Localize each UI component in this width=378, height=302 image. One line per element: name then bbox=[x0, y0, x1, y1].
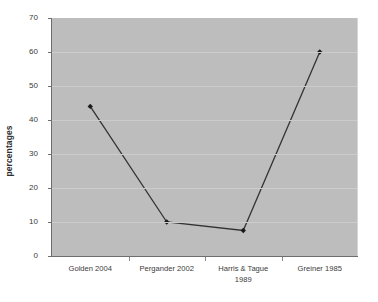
x-tick-label: Golden 2004 bbox=[52, 264, 129, 275]
gridline bbox=[52, 120, 357, 121]
x-tick-mark bbox=[282, 257, 283, 261]
gridline bbox=[52, 52, 357, 53]
gridline bbox=[52, 188, 357, 189]
data-point-marker bbox=[241, 228, 246, 233]
x-tick-label: Greiner 1985 bbox=[282, 264, 359, 275]
plot-area bbox=[52, 18, 358, 256]
y-tick-label: 60 bbox=[29, 48, 38, 56]
gridline bbox=[52, 222, 357, 223]
x-tick-label: Pergander 2002 bbox=[129, 264, 206, 275]
x-tick-label: Harris & Tague 1989 bbox=[205, 264, 282, 285]
y-tick-label: 40 bbox=[29, 116, 38, 124]
y-tick-label: 10 bbox=[29, 218, 38, 226]
y-tick-label: 30 bbox=[29, 150, 38, 158]
series-path bbox=[90, 52, 320, 231]
gridline bbox=[52, 154, 357, 155]
x-axis-tick-labels: Golden 2004Pergander 2002Harris & Tague … bbox=[52, 264, 358, 302]
series-line-percentages bbox=[52, 18, 358, 256]
y-axis-tick-labels: 010203040506070 bbox=[0, 0, 46, 302]
x-tick-mark bbox=[205, 257, 206, 261]
y-tick-label: 50 bbox=[29, 82, 38, 90]
y-tick-label: 0 bbox=[34, 252, 38, 260]
chart-container: percentages 010203040506070 Golden 2004P… bbox=[0, 0, 378, 302]
y-tick-label: 70 bbox=[29, 14, 38, 22]
y-tick-label: 20 bbox=[29, 184, 38, 192]
x-tick-mark bbox=[129, 257, 130, 261]
gridline bbox=[52, 86, 357, 87]
